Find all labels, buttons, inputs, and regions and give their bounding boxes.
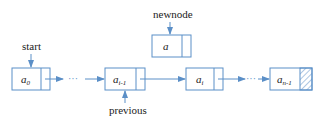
start-label: start: [22, 40, 41, 52]
linked-list-diagram: start a0 ··· ai-1 previous newnode a ai: [0, 0, 317, 125]
node-a-n-minus-1: an-1: [270, 68, 312, 90]
new-node-a: a: [152, 35, 191, 57]
node-a-i-minus-1: ai-1: [105, 68, 145, 90]
node-a0: a0: [12, 68, 50, 90]
newnode-pointer: newnode: [153, 8, 193, 34]
node-a-i: ai: [186, 68, 223, 90]
previous-label: previous: [109, 104, 147, 116]
null-pointer-hatch-icon: [300, 68, 312, 90]
ellipsis-2: ···: [246, 73, 256, 84]
newnode-label: newnode: [153, 8, 193, 20]
new-node-label: a: [163, 40, 169, 52]
start-pointer: start: [22, 40, 41, 67]
previous-pointer: previous: [109, 91, 147, 116]
ellipsis-1: ···: [68, 73, 78, 84]
